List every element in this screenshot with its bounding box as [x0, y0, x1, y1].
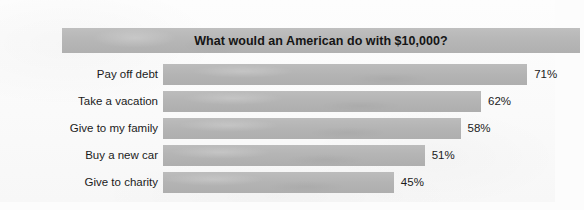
chart-title-banner: What would an American do with $10,000?	[62, 28, 580, 53]
bar-value-label: 71%	[534, 69, 557, 81]
bar-track: 71%	[163, 64, 584, 85]
category-label: Give to charity	[40, 177, 158, 189]
bar-value-label: 45%	[401, 177, 424, 189]
category-label: Give to my family	[40, 123, 158, 135]
chart-plot-area: Pay off debt71%Take a vacation62%Give to…	[40, 64, 584, 210]
chart-title: What would an American do with $10,000?	[194, 34, 448, 48]
bar-fill	[163, 145, 425, 166]
category-label: Take a vacation	[40, 96, 158, 108]
bar-value-label: 51%	[432, 150, 455, 162]
bar-value-label: 62%	[488, 96, 511, 108]
bar-value-label: 58%	[468, 123, 491, 135]
category-label: Pay off debt	[40, 69, 158, 81]
chart-row: Give to my family58%	[40, 118, 584, 139]
bar-fill	[163, 91, 481, 112]
chart-row: Take a vacation62%	[40, 91, 584, 112]
bar-fill	[163, 64, 527, 85]
bar-chart-figure: What would an American do with $10,000? …	[40, 16, 515, 186]
chart-row: Give to charity45%	[40, 172, 584, 193]
bar-track: 62%	[163, 91, 584, 112]
bar-fill	[163, 172, 394, 193]
bar-fill	[163, 118, 461, 139]
bar-track: 58%	[163, 118, 584, 139]
chart-row: Buy a new car51%	[40, 145, 584, 166]
chart-row: Pay off debt71%	[40, 64, 584, 85]
bar-track: 51%	[163, 145, 584, 166]
bar-track: 45%	[163, 172, 584, 193]
category-label: Buy a new car	[40, 150, 158, 162]
